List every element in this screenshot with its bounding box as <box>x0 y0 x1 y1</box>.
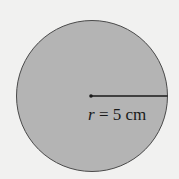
center-point <box>89 94 93 98</box>
radius-unit: cm <box>121 105 146 124</box>
circle-diagram: r = 5 cm <box>0 0 179 179</box>
radius-value: 5 <box>113 105 122 124</box>
radius-equals: = <box>95 105 113 124</box>
radius-label: r = 5 cm <box>88 105 146 124</box>
